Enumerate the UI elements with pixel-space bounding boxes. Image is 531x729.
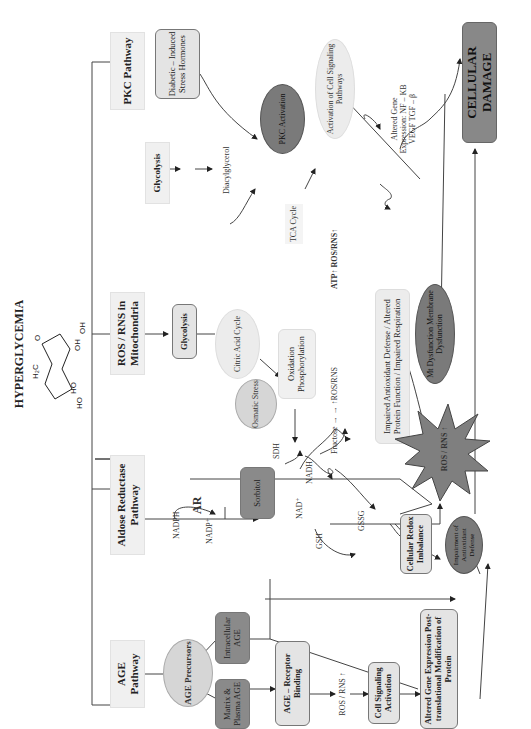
node-stress-hormones: Diabetic – Induced Stress Hormones [155,29,200,99]
node-ros-rns-star: ROS / RNS ↑ [435,419,455,479]
label-diacylglycerol: Diacylglycerol [222,146,231,194]
node-cellular-damage: CELLULAR DAMAGE [462,22,497,143]
diagram-canvas: HYPERGLYCEMIA H₂C O OH OH HO HO AGE Path… [0,0,531,729]
node-pkc-activation: PKC Activation [260,84,305,154]
label-altered-gene-expr-pkc: Altered Gene Expression: NF – KB VEGF TG… [390,79,417,159]
node-activation-cell-signaling: Activation of Cell Signaling Pathways [315,39,355,139]
